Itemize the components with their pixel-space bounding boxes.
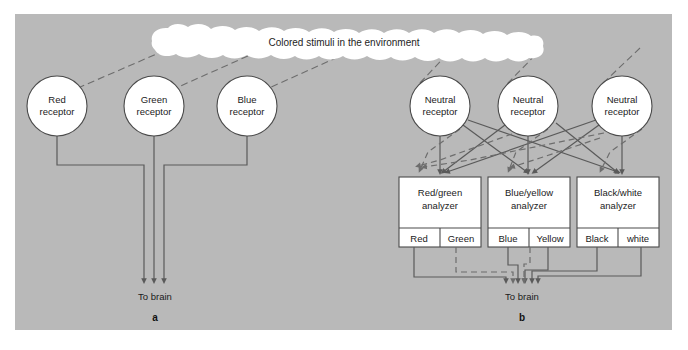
wiring-part-b-solid [414, 247, 641, 281]
wire-red-out [414, 247, 506, 281]
receptor-green-line1: Green [141, 94, 167, 105]
receptor-neutral-2-line2: receptor [511, 106, 546, 117]
analyzer-blue-yellow: Blue/yellow analyzer Blue Yellow [488, 177, 570, 247]
analyzer-blue-yellow-left-cell: Blue [498, 233, 517, 244]
receptor-neutral-2-line1: Neutral [513, 94, 544, 105]
wiring-part-b-dashed [456, 247, 530, 281]
panel-label-b: b [519, 312, 525, 323]
receptors-part-b: Neutral receptor Neutral receptor Neutra… [410, 76, 652, 136]
link-n3-to-by-dashed [512, 138, 600, 167]
receptor-neutral-3-line2: receptor [605, 106, 640, 117]
analyzer-red-green: Red/green analyzer Red Green [399, 177, 481, 247]
analyzer-black-white-title-line1: Black/white [594, 187, 642, 198]
wiring-part-a [57, 136, 247, 281]
receptor-green: Green receptor [124, 76, 184, 136]
receptor-neutral-3: Neutral receptor [592, 76, 652, 136]
receptor-neutral-3-line1: Neutral [607, 94, 638, 105]
wire-white-out [538, 247, 641, 281]
analyzer-black-white-right-cell: white [626, 233, 649, 244]
receptor-red: Red receptor [27, 76, 87, 136]
analyzer-blue-yellow-right-cell: Yellow [536, 233, 563, 244]
to-brain-label-a: To brain [138, 291, 172, 302]
receptor-blue-line2: receptor [230, 106, 265, 117]
receptor-neutral-2: Neutral receptor [498, 76, 558, 136]
receptor-neutral-1-line1: Neutral [425, 94, 456, 105]
wire-green-out-dashed [456, 247, 513, 281]
analyzer-red-green-title-line2: analyzer [422, 200, 458, 211]
receptor-neutral-1-line2: receptor [423, 106, 458, 117]
receptor-red-line2: receptor [40, 106, 75, 117]
to-brain-label-b: To brain [505, 291, 539, 302]
stimulus-banner: Colored stimuli in the environment [152, 24, 544, 61]
analyzer-red-green-left-cell: Red [410, 233, 427, 244]
analyzer-red-green-right-cell: Green [448, 233, 474, 244]
wire-red-to-brain [57, 136, 144, 281]
analyzer-black-white: Black/white analyzer Black white [577, 177, 659, 247]
banner-label: Colored stimuli in the environment [268, 37, 419, 48]
receptor-red-line1: Red [48, 94, 65, 105]
analyzer-black-white-left-cell: Black [585, 233, 608, 244]
panel-label-a: a [152, 312, 158, 323]
analyzer-blue-yellow-title-line2: analyzer [511, 200, 547, 211]
receptors-part-a: Red receptor Green receptor Blue recepto… [27, 76, 277, 136]
analyzer-red-green-title-line1: Red/green [418, 187, 462, 198]
analyzer-black-white-title-line2: analyzer [600, 200, 636, 211]
receptor-neutral-1: Neutral receptor [410, 76, 470, 136]
receptor-blue: Blue receptor [217, 76, 277, 136]
receptor-blue-line1: Blue [237, 94, 256, 105]
analyzer-blue-yellow-title-line1: Blue/yellow [505, 187, 553, 198]
diagram-canvas: Colored stimuli in the environment Red r… [0, 0, 688, 350]
figure-root: Colored stimuli in the environment Red r… [0, 0, 688, 350]
wire-blue-to-brain [164, 136, 247, 281]
receptor-green-line2: receptor [137, 106, 172, 117]
